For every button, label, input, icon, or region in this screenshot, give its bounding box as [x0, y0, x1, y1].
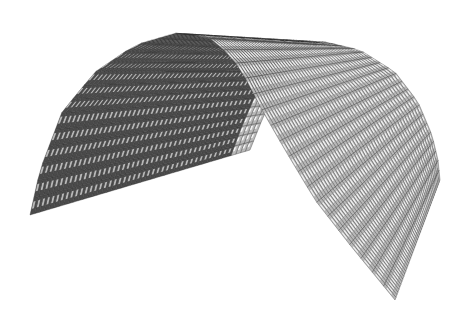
arched-tile-surface-render	[0, 0, 467, 316]
tile-grid	[30, 33, 440, 300]
